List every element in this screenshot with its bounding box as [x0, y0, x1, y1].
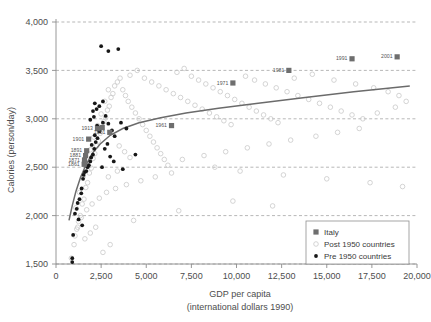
- data-point-post-1950: [128, 73, 133, 78]
- data-point-pre-1950: [70, 260, 74, 264]
- data-point-pre-1950: [76, 201, 80, 205]
- data-point-post-1950: [97, 196, 102, 201]
- data-point-post-1950: [93, 225, 98, 230]
- data-point-post-1950: [151, 140, 156, 145]
- data-point-pre-1950: [100, 165, 104, 169]
- data-point-post-1950: [296, 93, 301, 98]
- data-point-post-1950: [397, 93, 402, 98]
- data-point-pre-1950: [134, 153, 138, 157]
- data-point-italy: [83, 153, 88, 158]
- data-point-post-1950: [157, 84, 162, 89]
- data-point-post-1950: [332, 78, 337, 83]
- data-point-post-1950: [404, 99, 409, 104]
- data-point-post-1950: [99, 112, 104, 117]
- data-point-pre-1950: [88, 159, 92, 163]
- data-point-post-1950: [189, 74, 194, 79]
- data-point-post-1950: [101, 250, 106, 255]
- italy-year-label: 1961: [155, 122, 167, 128]
- data-point-pre-1950: [112, 159, 116, 163]
- data-point-post-1950: [139, 178, 144, 183]
- y-axis-title: Calories (person/day): [6, 107, 16, 193]
- data-point-pre-1950: [88, 118, 92, 122]
- data-point-pre-1950: [91, 153, 95, 157]
- data-point-post-1950: [131, 218, 136, 223]
- data-point-post-1950: [247, 105, 252, 110]
- data-point-italy: [169, 123, 174, 128]
- data-point-post-1950: [214, 115, 219, 120]
- trend-line: [69, 86, 410, 221]
- data-point-post-1950: [149, 80, 154, 85]
- data-point-post-1950: [128, 155, 133, 160]
- data-point-post-1950: [196, 78, 201, 83]
- data-point-post-1950: [182, 66, 187, 71]
- data-point-post-1950: [357, 126, 362, 131]
- y-tick-label: 4,000: [25, 17, 48, 27]
- italy-year-label: 1991: [336, 55, 348, 61]
- data-point-pre-1950: [87, 163, 91, 167]
- italy-year-label: 1971: [217, 80, 229, 86]
- x-tick-label: 0: [53, 271, 58, 281]
- data-point-pre-1950: [104, 114, 108, 118]
- data-point-post-1950: [148, 134, 153, 139]
- data-point-post-1950: [169, 171, 174, 176]
- y-tick-label: 3,500: [25, 66, 48, 76]
- data-point-pre-1950: [101, 121, 105, 125]
- data-point-pre-1950: [116, 47, 120, 51]
- italy-year-label: 1951: [94, 129, 106, 135]
- data-point-post-1950: [178, 95, 183, 100]
- x-tick-label: 12,500: [268, 271, 296, 281]
- data-point-post-1950: [133, 111, 138, 116]
- data-point-post-1950: [292, 76, 297, 81]
- data-point-pre-1950: [96, 136, 100, 140]
- data-point-pre-1950: [92, 115, 96, 119]
- data-point-pre-1950: [108, 155, 112, 159]
- data-point-post-1950: [153, 175, 158, 180]
- data-point-post-1950: [162, 157, 167, 162]
- data-point-post-1950: [288, 138, 293, 143]
- data-point-post-1950: [166, 163, 171, 168]
- data-point-post-1950: [124, 182, 129, 187]
- data-point-pre-1950: [99, 44, 103, 48]
- data-point-post-1950: [393, 105, 398, 110]
- data-point-post-1950: [261, 113, 266, 118]
- legend-marker-italy: [313, 229, 318, 234]
- data-point-post-1950: [317, 101, 322, 106]
- data-point-pre-1950: [70, 256, 74, 260]
- data-point-post-1950: [223, 149, 228, 154]
- data-point-post-1950: [324, 177, 329, 182]
- data-point-pre-1950: [77, 218, 81, 222]
- data-point-post-1950: [85, 180, 90, 185]
- x-tick-label: 2,500: [90, 271, 113, 281]
- data-point-post-1950: [83, 237, 88, 242]
- data-point-post-1950: [83, 185, 88, 190]
- legend-marker-pre-1950: [314, 254, 318, 258]
- data-point-post-1950: [211, 86, 216, 91]
- italy-year-label: 1901: [73, 136, 85, 142]
- data-point-post-1950: [335, 130, 340, 135]
- data-point-pre-1950: [106, 122, 110, 126]
- data-point-italy: [86, 137, 91, 142]
- data-point-post-1950: [120, 87, 125, 92]
- data-point-post-1950: [82, 197, 87, 202]
- data-point-post-1950: [142, 76, 147, 81]
- data-point-post-1950: [117, 144, 122, 149]
- data-point-post-1950: [107, 104, 112, 109]
- data-point-italy: [349, 56, 354, 61]
- data-point-post-1950: [263, 82, 268, 87]
- data-point-post-1950: [88, 231, 93, 236]
- data-point-pre-1950: [97, 104, 101, 108]
- scatter-chart: 1861187118811891190119131951196119711981…: [0, 0, 431, 322]
- data-point-post-1950: [171, 91, 176, 96]
- data-point-pre-1950: [121, 167, 125, 171]
- data-point-pre-1950: [81, 177, 85, 181]
- data-point-italy: [84, 148, 89, 153]
- data-point-post-1950: [254, 109, 259, 114]
- data-point-post-1950: [155, 146, 160, 151]
- data-point-pre-1950: [101, 99, 105, 103]
- y-axis-tick-labels: 1,5002,0002,5003,0003,5004,000: [25, 17, 48, 269]
- data-point-post-1950: [113, 186, 118, 191]
- data-point-post-1950: [267, 142, 272, 147]
- x-tick-label: 20,000: [403, 271, 431, 281]
- data-point-post-1950: [353, 82, 358, 87]
- data-point-post-1950: [238, 169, 243, 174]
